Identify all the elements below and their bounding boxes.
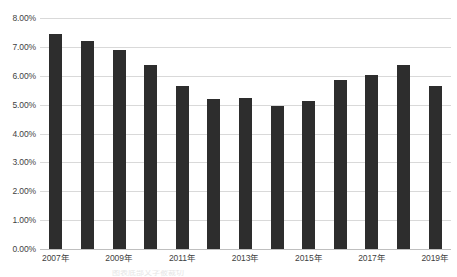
y-axis: 0.00%1.00%2.00%3.00%4.00%5.00%6.00%7.00%…: [0, 18, 36, 249]
x-axis-tick-label: 2009年: [105, 252, 132, 264]
gridline: [40, 249, 451, 250]
bar: [397, 65, 410, 249]
x-axis: 2007年2009年2011年2013年2015年2017年2019年: [40, 252, 451, 268]
y-axis-tick-label: 1.00%: [0, 216, 36, 225]
y-axis-tick-label: 8.00%: [0, 14, 36, 23]
x-axis-tick-label: 2017年: [358, 252, 385, 264]
x-axis-tick-label: 2015年: [295, 252, 322, 264]
plot-area: [40, 18, 451, 249]
y-axis-tick-label: 3.00%: [0, 158, 36, 167]
x-axis-tick-label: 2007年: [42, 252, 69, 264]
bar: [239, 98, 252, 249]
bar-series: [40, 18, 451, 249]
bar: [49, 34, 62, 249]
bar: [113, 50, 126, 249]
bar: [144, 65, 157, 249]
y-axis-tick-label: 7.00%: [0, 43, 36, 52]
y-axis-tick-label: 6.00%: [0, 72, 36, 81]
bar: [365, 75, 378, 249]
bar: [271, 106, 284, 249]
bar: [176, 86, 189, 249]
y-axis-tick-label: 5.00%: [0, 100, 36, 109]
y-axis-tick-label: 0.00%: [0, 245, 36, 254]
bar: [302, 101, 315, 249]
figure-caption-text: 图表底部文字被裁切: [112, 270, 184, 277]
bar: [334, 80, 347, 249]
bar-chart: 0.00%1.00%2.00%3.00%4.00%5.00%6.00%7.00%…: [0, 0, 457, 277]
bar: [429, 86, 442, 249]
x-axis-tick-label: 2013年: [232, 252, 259, 264]
y-axis-tick-label: 2.00%: [0, 187, 36, 196]
x-axis-tick-label: 2011年: [169, 252, 196, 264]
y-axis-tick-label: 4.00%: [0, 129, 36, 138]
bar: [81, 41, 94, 249]
x-axis-tick-label: 2019年: [421, 252, 448, 264]
figure-caption: 图表底部文字被裁切: [0, 270, 457, 277]
bar: [207, 99, 220, 249]
